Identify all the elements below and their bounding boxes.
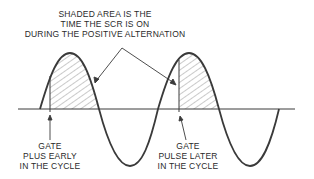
callout-arrows — [94, 48, 176, 85]
gate-early-line-2: PLUS EARLY — [5, 151, 95, 161]
gate-arrows — [48, 115, 186, 140]
gate-early-line-1: GATE — [5, 141, 95, 151]
annotation-line-1: SHADED AREA IS THE — [0, 9, 262, 19]
gate-late-label: GATE PULSE LATER IN THE CYCLE — [143, 141, 233, 171]
gate-late-line-3: IN THE CYCLE — [143, 161, 233, 171]
gate-early-line-3: IN THE CYCLE — [5, 161, 95, 171]
gate-early-label: GATE PLUS EARLY IN THE CYCLE — [5, 141, 95, 171]
annotation-line-2: TIME THE SCR IS ON — [0, 19, 262, 29]
shaded-area-annotation: SHADED AREA IS THE TIME THE SCR IS ON DU… — [0, 9, 262, 39]
gate-late-line-2: PULSE LATER — [143, 151, 233, 161]
gate-late-line-1: GATE — [143, 141, 233, 151]
annotation-line-3: DURING THE POSITIVE ALTERNATION — [0, 29, 262, 39]
